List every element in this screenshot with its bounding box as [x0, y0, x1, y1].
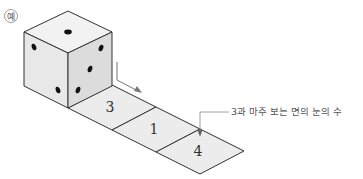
annotation-text: 3과 마주 보는 면의 눈의 수 — [231, 106, 342, 117]
tile-value-3: 4 — [194, 143, 203, 159]
tile-value-2: 1 — [150, 121, 159, 137]
tile-value-1: 3 — [106, 99, 115, 115]
example-marker: 예 — [5, 10, 18, 23]
roll-direction-arrow — [117, 62, 142, 93]
dice-rolling-diagram: 예 3 1 4 3과 마주 보는 면의 눈의 수 — [0, 0, 363, 179]
example-label: 예 — [7, 12, 15, 22]
